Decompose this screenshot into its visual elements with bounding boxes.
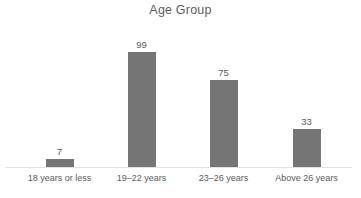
bar[interactable]: [293, 129, 321, 167]
category-label: Above 26 years: [261, 173, 352, 183]
bar[interactable]: [46, 159, 74, 167]
bar-value-label: 75: [178, 67, 269, 78]
bar-group-2: 75 23–26 years: [178, 0, 269, 198]
bar-chart: Age Group 7 18 years or less 99 19–22 ye…: [0, 0, 361, 198]
bar[interactable]: [210, 80, 238, 167]
bar-group-0: 7 18 years or less: [14, 0, 105, 198]
category-label: 18 years or less: [14, 173, 105, 183]
category-label: 23–26 years: [178, 173, 269, 183]
bar-group-3: 33 Above 26 years: [261, 0, 352, 198]
bar-value-label: 7: [14, 146, 105, 157]
plot-area: 7 18 years or less 99 19–22 years 75 23–…: [0, 0, 361, 198]
bar[interactable]: [128, 52, 156, 167]
bar-value-label: 99: [96, 39, 187, 50]
bar-group-1: 99 19–22 years: [96, 0, 187, 198]
category-label: 19–22 years: [96, 173, 187, 183]
bar-value-label: 33: [261, 116, 352, 127]
